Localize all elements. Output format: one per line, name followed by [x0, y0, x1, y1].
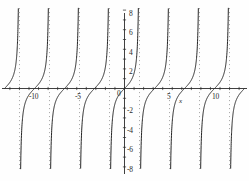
x-tick-label-5: 5	[167, 93, 171, 101]
y-tick-label-neg8: -8	[127, 166, 133, 174]
plot-canvas	[0, 0, 249, 181]
y-tick-label-2: 2	[129, 68, 133, 76]
x-tick-label-neg10: -10	[29, 93, 38, 101]
y-tick-label-neg4: -4	[127, 127, 133, 135]
tan-branch-0	[5, 9, 19, 89]
y-tick-label-neg6: -6	[127, 146, 133, 154]
y-tick-label-4: 4	[129, 49, 133, 57]
x-tick-label-10: 10	[212, 93, 219, 101]
y-tick-label-6: 6	[129, 29, 133, 37]
x-tick-label-neg5: -5	[75, 93, 81, 101]
x-axis-label: x	[179, 97, 182, 105]
y-tick-label-0: 0	[117, 90, 121, 98]
tan-branch-8	[231, 89, 245, 169]
y-tick-label-neg2: -2	[127, 107, 133, 115]
y-tick-label-8: 8	[129, 10, 133, 18]
tangent-function-plot: 8 6 4 2 0 -2 -4 -6 -8 -10 -5 5 10 x	[0, 0, 249, 181]
